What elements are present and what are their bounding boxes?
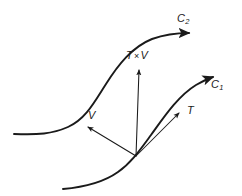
vector-t-cross-v-label-t: T bbox=[126, 49, 133, 61]
vector-t-cross-v-label-v: V bbox=[140, 49, 148, 61]
vector-diagram-svg bbox=[0, 0, 242, 196]
curve-c1-label-subscript: 1 bbox=[219, 83, 223, 92]
curve-c1-label: C1 bbox=[211, 79, 224, 90]
vector-v-label-text: V bbox=[88, 109, 96, 121]
curve-c1-label-text: C bbox=[211, 78, 219, 90]
vector-v-line bbox=[88, 127, 136, 156]
vector-t-cross-v-label: T×V bbox=[126, 50, 148, 61]
figure-container: C2 C1 T×V V T bbox=[0, 0, 242, 196]
vector-v-label: V bbox=[88, 110, 96, 121]
curve-c2-label-subscript: 2 bbox=[185, 17, 189, 26]
curve-c2-label-text: C bbox=[177, 12, 185, 24]
vector-t-line bbox=[136, 113, 179, 156]
vector-t-label-text: T bbox=[187, 104, 194, 116]
vector-t-cross-v-line bbox=[136, 70, 139, 156]
curve-c2-label: C2 bbox=[177, 13, 190, 24]
vector-t-label: T bbox=[187, 105, 194, 116]
